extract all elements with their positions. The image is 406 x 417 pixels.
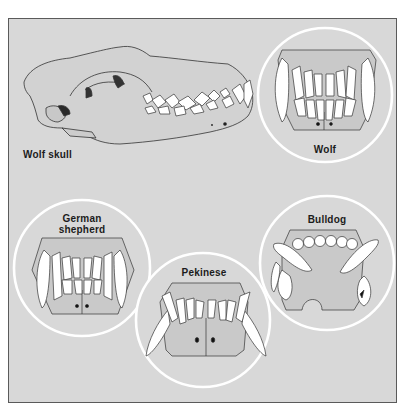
wolf-label: Wolf xyxy=(305,144,345,155)
pekinese-label: Pekinese xyxy=(178,267,230,278)
german-shepherd-label-line2: shepherd xyxy=(52,224,112,235)
wolf-skull-label: Wolf skull xyxy=(23,149,83,160)
bulldog-teeth-drawing xyxy=(271,230,378,310)
dentition-illustration xyxy=(0,0,406,417)
german-shepherd-label-line1: German xyxy=(52,213,112,224)
wolf-teeth-drawing xyxy=(275,50,376,130)
wolf-skull-drawing xyxy=(24,46,253,144)
german-shepherd-label: German shepherd xyxy=(52,213,112,235)
german-shepherd-teeth-drawing xyxy=(32,238,134,314)
bulldog-label: Bulldog xyxy=(300,214,354,225)
